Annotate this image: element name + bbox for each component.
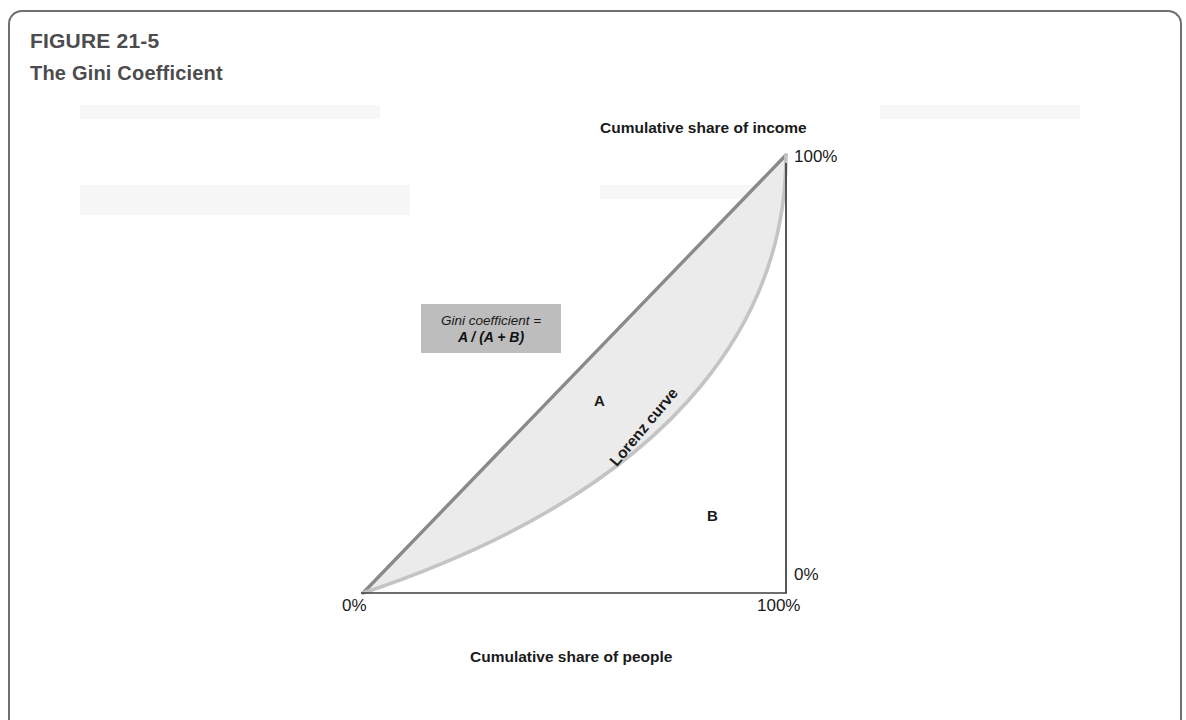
y-axis-title: Cumulative share of income [600,119,800,137]
x-axis-title: Cumulative share of people [470,648,670,666]
x-axis-tick-right: 100% [757,596,800,616]
region-label-a: A [594,392,605,409]
gini-callout-line-1: Gini coefficient = [441,313,541,328]
gini-callout-line-2: A / (A + B) [458,329,524,345]
line-of-perfect-equality [363,155,786,593]
x-axis-tick-left: 0% [342,596,367,616]
y-axis-tick-top: 100% [794,147,837,167]
y-axis-tick-bottom: 0% [794,565,819,585]
region-label-b: B [707,507,718,524]
gini-coefficient-callout: Gini coefficient = A / (A + B) [421,304,561,353]
